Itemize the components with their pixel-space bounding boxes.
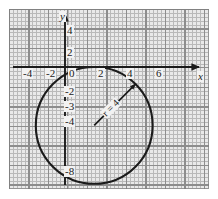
x-tick-label: 6 xyxy=(155,68,163,79)
y-tick-label: 2 xyxy=(66,47,74,58)
y-axis-label: y xyxy=(59,11,66,22)
x-tick-label: -4 xyxy=(22,68,33,79)
x-tick-label: 2 xyxy=(97,68,105,79)
x-axis-label: x xyxy=(197,71,204,82)
x-tick-label: 0 xyxy=(68,68,76,79)
y-tick-label: -4 xyxy=(64,116,75,127)
y-tick-label: 4 xyxy=(66,25,74,36)
graph-figure: x y -4 -2 0 2 4 6 4 2 -2 -3 -4 -8 r = 4 xyxy=(0,0,218,199)
y-tick-label: -2 xyxy=(64,86,75,97)
x-tick-label: 4 xyxy=(126,68,134,79)
y-tick-label: -8 xyxy=(64,166,75,177)
x-tick-label: -2 xyxy=(45,68,56,79)
y-tick-label: -3 xyxy=(64,101,75,112)
coordinate-plot xyxy=(9,9,209,189)
